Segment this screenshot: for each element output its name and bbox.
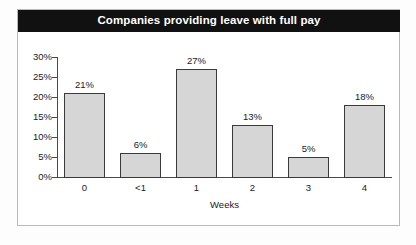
x-tick-label-lt1: <1 — [120, 182, 161, 193]
bar-4 — [344, 105, 385, 178]
y-tick-label: 25% — [22, 72, 52, 82]
bar-1 — [176, 69, 217, 178]
x-axis-title: Weeks — [57, 199, 392, 210]
y-tick-label: 15% — [22, 112, 52, 122]
bar-value-label-2: 13% — [232, 111, 273, 122]
bar-value-label-lt1: 6% — [120, 139, 161, 150]
x-tick-label-0: 0 — [64, 182, 105, 193]
y-tick-20: 20% — [22, 92, 52, 102]
x-axis-line — [57, 177, 392, 178]
x-tick-label-2: 2 — [232, 182, 273, 193]
bar-value-label-4: 18% — [344, 91, 385, 102]
y-tick-mark — [52, 57, 57, 58]
y-tick-label: 0% — [22, 172, 52, 182]
plot-area: 30% 25% 20% 15% 10% 5% 0% — [0, 0, 416, 245]
y-tick-mark — [52, 177, 57, 178]
y-tick-mark — [52, 117, 57, 118]
y-tick-mark — [52, 77, 57, 78]
bar-2 — [232, 125, 273, 178]
y-tick-mark — [52, 157, 57, 158]
bar-lt1 — [120, 153, 161, 178]
y-tick-label: 10% — [22, 132, 52, 142]
y-tick-label: 5% — [22, 152, 52, 162]
y-tick-label: 20% — [22, 92, 52, 102]
y-tick-5: 5% — [22, 152, 52, 162]
y-tick-label: 30% — [22, 52, 52, 62]
x-tick-label-4: 4 — [344, 182, 385, 193]
y-tick-mark — [52, 97, 57, 98]
bar-value-label-3: 5% — [288, 143, 329, 154]
bar-0 — [64, 93, 105, 178]
bar-value-label-1: 27% — [176, 55, 217, 66]
y-tick-25: 25% — [22, 72, 52, 82]
y-tick-15: 15% — [22, 112, 52, 122]
y-axis-line — [57, 57, 58, 178]
bar-3 — [288, 157, 329, 178]
x-tick-label-3: 3 — [288, 182, 329, 193]
chart-figure: Companies providing leave with full pay … — [0, 0, 416, 245]
y-tick-mark — [52, 137, 57, 138]
y-tick-10: 10% — [22, 132, 52, 142]
y-tick-30: 30% — [22, 52, 52, 62]
x-tick-label-1: 1 — [176, 182, 217, 193]
bar-value-label-0: 21% — [64, 79, 105, 90]
y-tick-0: 0% — [22, 172, 52, 182]
